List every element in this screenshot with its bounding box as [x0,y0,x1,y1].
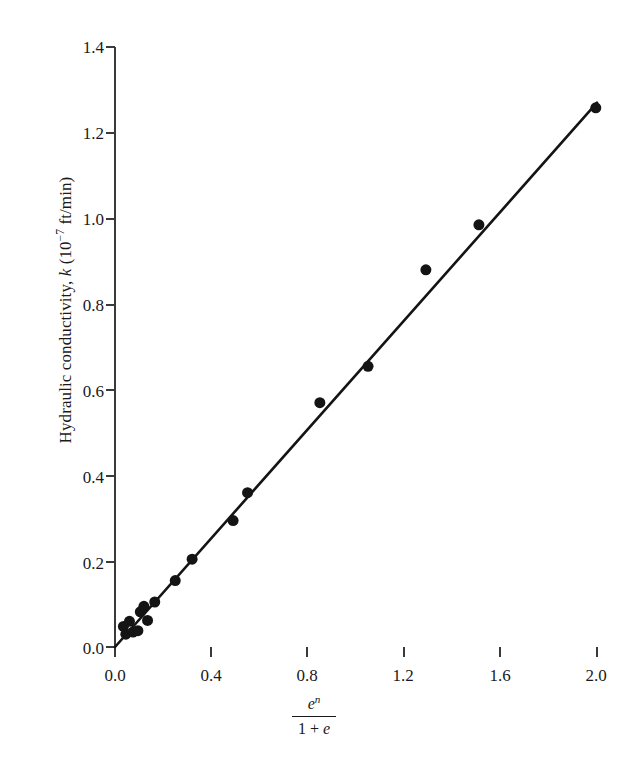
data-point-marker [314,397,325,408]
data-point-marker [363,361,374,372]
data-point-marker [473,219,484,230]
fit-line [115,103,597,647]
data-point-marker [124,616,135,627]
data-point-marker [228,515,239,526]
data-point-marker [149,597,160,608]
data-point-marker [138,601,149,612]
x-axis-ticks [115,647,597,657]
data-point-marker [132,625,143,636]
data-point-marker [242,487,253,498]
data-point-marker [142,615,153,626]
figure-container: Hydraulic conductivity, k (10−7 ft/min) … [0,0,628,768]
data-point-marker [590,102,601,113]
data-point-marker [420,264,431,275]
y-axis-ticks [106,47,115,647]
data-point-marker [170,575,181,586]
data-point-marker [187,554,198,565]
plot-area [0,0,628,768]
fit-line-segment [115,103,597,647]
